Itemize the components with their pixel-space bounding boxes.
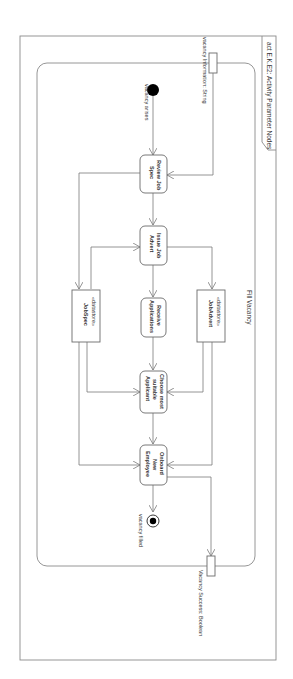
action-issue-job-advert[interactable]: Issue Job Advert <box>140 226 167 265</box>
svg-text:Receive: Receive <box>156 305 162 326</box>
svg-text:Employee: Employee <box>145 451 151 477</box>
edge-jobspec-onboard <box>79 342 140 465</box>
svg-text:Choose most: Choose most <box>159 374 165 409</box>
svg-text:JobAdvert: JobAdvert <box>208 300 214 327</box>
action-onboard-employee[interactable]: Onboard New Employee <box>140 445 167 485</box>
output-parameter-label: Vacancy Success: Boolean <box>198 570 204 636</box>
edge-jobspec-issue <box>91 247 140 289</box>
initial-label: vacancy arises <box>144 84 150 121</box>
datastore-jobadvert[interactable]: «datastore» JobAdvert <box>197 290 225 342</box>
action-choose-applicant[interactable]: Choose most suitable Applicant <box>140 371 167 413</box>
final-node <box>147 515 159 527</box>
output-parameter-node[interactable] <box>207 556 215 576</box>
datastore-jobspec[interactable]: «datastore» JobSpec <box>72 290 100 342</box>
svg-text:Spec: Spec <box>149 166 155 179</box>
edge-jobadvert-choose <box>167 342 203 392</box>
action-receive-applications[interactable]: Receive Applications <box>141 298 166 337</box>
edge-review-jobspec <box>79 173 140 289</box>
svg-text:suitable: suitable <box>152 379 158 400</box>
svg-text:Applicant: Applicant <box>145 376 151 401</box>
activity-name: Fill Vacancy <box>245 290 253 325</box>
edge-jobspec-choose <box>87 342 140 392</box>
input-parameter-label: vacancy Information: String <box>202 37 208 104</box>
svg-text:JobSpec: JobSpec <box>83 303 89 326</box>
final-label: vacancy filled <box>138 514 144 547</box>
svg-text:Review Job: Review Job <box>156 160 162 191</box>
svg-text:Issue Job: Issue Job <box>156 233 162 259</box>
svg-text:«datastore»: «datastore» <box>91 297 97 326</box>
svg-text:Applications: Applications <box>149 300 155 333</box>
edge-issue-jobadvert <box>167 247 212 289</box>
svg-text:New: New <box>152 459 158 471</box>
action-review-job-spec[interactable]: Review Job Spec <box>140 155 167 193</box>
input-parameter-node[interactable] <box>209 53 217 73</box>
frame-title: act E.K.E2: Activity Parameter Nodes <box>265 42 273 150</box>
svg-text:Advert: Advert <box>149 235 155 253</box>
activity-diagram: act E.K.E2: Activity Parameter Nodes Fil… <box>0 0 293 679</box>
edge-jobadvert-onboard <box>167 342 212 465</box>
edge-onboard-output <box>167 477 211 556</box>
svg-text:«datastore»: «datastore» <box>216 297 222 326</box>
svg-text:Onboard: Onboard <box>159 452 165 475</box>
